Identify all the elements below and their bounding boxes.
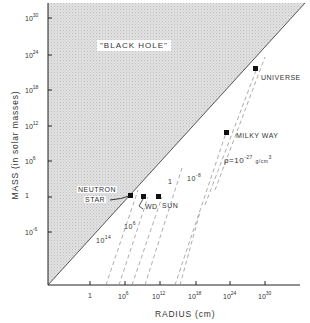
density-label-rho: ρ=10-27 g/cm3 xyxy=(224,154,272,165)
density-label-1e14: 1014 xyxy=(96,234,111,244)
wd-label: WD xyxy=(145,203,158,210)
x-ticks xyxy=(90,281,265,285)
universe-label: UNIVERSE xyxy=(261,74,301,81)
y-tick-1e30: 1030 xyxy=(25,12,38,22)
point-sun xyxy=(156,194,161,199)
x-tick-1e18: 1018 xyxy=(188,290,201,300)
sun-label: SUN xyxy=(162,202,178,209)
milky-way-label: MILKY WAY xyxy=(236,132,279,139)
x-tick-1e24: 1024 xyxy=(223,290,236,300)
point-neutron-star xyxy=(128,193,133,198)
y-tick-1e18: 1018 xyxy=(25,84,38,94)
y-tick-1: 1 xyxy=(25,192,29,199)
x-axis-title: RADIUS (cm) xyxy=(155,309,215,319)
point-milky-way xyxy=(224,130,229,135)
x-tick-1e12: 1012 xyxy=(152,290,165,300)
x-tick-1: 1 xyxy=(88,292,92,299)
point-wd xyxy=(141,194,146,199)
density-label-1: 1 xyxy=(168,178,172,185)
star-label: STAR xyxy=(84,196,106,203)
density-label-1e-8: 10-8 xyxy=(187,172,201,182)
y-tick-1e-6: 10-6 xyxy=(25,226,37,236)
neutron-label: NEUTRON xyxy=(77,186,117,193)
y-tick-1e24: 1024 xyxy=(25,49,38,59)
x-tick-1e6: 106 xyxy=(118,290,129,300)
y-tick-1e12: 1012 xyxy=(25,120,38,130)
y-tick-1e6: 106 xyxy=(25,155,36,165)
wd-leader xyxy=(139,199,143,209)
y-axis-title: MASS (in solar masses) xyxy=(10,90,20,200)
point-universe xyxy=(253,66,258,71)
x-tick-1e30: 1030 xyxy=(258,290,271,300)
density-label-1e6: 106 xyxy=(124,220,136,230)
black-hole-label: "BLACK HOLE" xyxy=(97,40,171,51)
